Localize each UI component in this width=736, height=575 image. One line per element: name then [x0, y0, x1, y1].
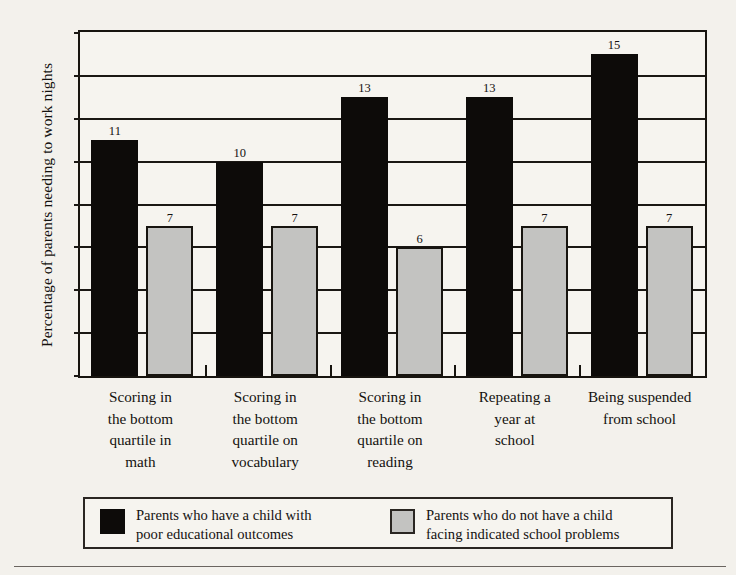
legend-entry-dark: Parents who have a child with poor educa…: [100, 506, 312, 545]
y-tick-mark: [74, 204, 80, 206]
chart-legend: Parents who have a child with poor educa…: [83, 497, 673, 549]
bar: 7: [646, 226, 693, 376]
bar-chart-figure: Percentage of parents needing to work ni…: [0, 0, 736, 575]
bar-value-label: 7: [541, 211, 547, 226]
y-tick-mark: [74, 332, 80, 334]
bar: 6: [396, 247, 443, 376]
bar-value-label: 10: [233, 146, 246, 161]
bar: 7: [521, 226, 568, 376]
x-axis-separator-tick: [330, 365, 332, 376]
x-axis-separator-tick: [579, 365, 581, 376]
bar: 7: [271, 226, 318, 376]
bar-value-label: 7: [292, 211, 298, 226]
x-axis-category-label: Being suspendedfrom school: [577, 386, 702, 429]
y-tick-mark: [74, 75, 80, 77]
bar-value-label: 7: [167, 211, 173, 226]
y-axis-title: Percentage of parents needing to work ni…: [38, 10, 56, 400]
bar-value-label: 7: [666, 211, 672, 226]
x-axis-separator-tick: [205, 365, 207, 376]
x-axis-category-label: Scoring inthe bottomquartile inmath: [78, 386, 203, 472]
y-tick-mark: [74, 289, 80, 291]
y-tick-mark: [74, 246, 80, 248]
y-tick-mark: [74, 161, 80, 163]
bar-value-label: 11: [109, 124, 121, 139]
x-axis-separator-tick: [454, 365, 456, 376]
bar: 11: [91, 140, 138, 376]
bar: 15: [591, 54, 638, 376]
x-axis-category-labels: Scoring inthe bottomquartile inmathScori…: [78, 386, 707, 481]
legend-label-dark: Parents who have a child with poor educa…: [136, 506, 312, 545]
legend-entry-light: Parents who do not have a child facing i…: [390, 506, 619, 545]
y-tick-mark: [74, 118, 80, 120]
dark-swatch-icon: [100, 509, 125, 534]
bar: 10: [216, 162, 263, 376]
bar-value-label: 6: [416, 232, 422, 247]
bar: 13: [466, 97, 513, 376]
bar: 7: [146, 226, 193, 376]
legend-label-light: Parents who do not have a child facing i…: [426, 506, 619, 545]
bar-value-label: 15: [608, 38, 621, 53]
bar-value-label: 13: [483, 81, 496, 96]
y-tick-mark: [74, 32, 80, 34]
page-footer-rule: [14, 566, 726, 567]
x-axis-category-label: Scoring inthe bottomquartile onvocabular…: [203, 386, 328, 472]
bar: 13: [341, 97, 388, 376]
y-tick-mark: [74, 375, 80, 377]
x-axis-category-label: Repeating ayear atschool: [452, 386, 577, 451]
light-swatch-icon: [390, 509, 415, 534]
x-axis-category-label: Scoring inthe bottomquartile onreading: [328, 386, 453, 472]
plot-area: 0246810121416117107136137157: [78, 30, 707, 378]
bar-value-label: 13: [358, 81, 371, 96]
